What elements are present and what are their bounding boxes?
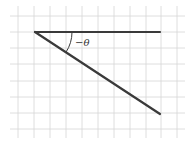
angle-diagram: −θ [0,0,189,145]
angle-label: −θ [75,37,89,48]
angle-arc [66,32,72,52]
terminal-ray [35,32,160,114]
